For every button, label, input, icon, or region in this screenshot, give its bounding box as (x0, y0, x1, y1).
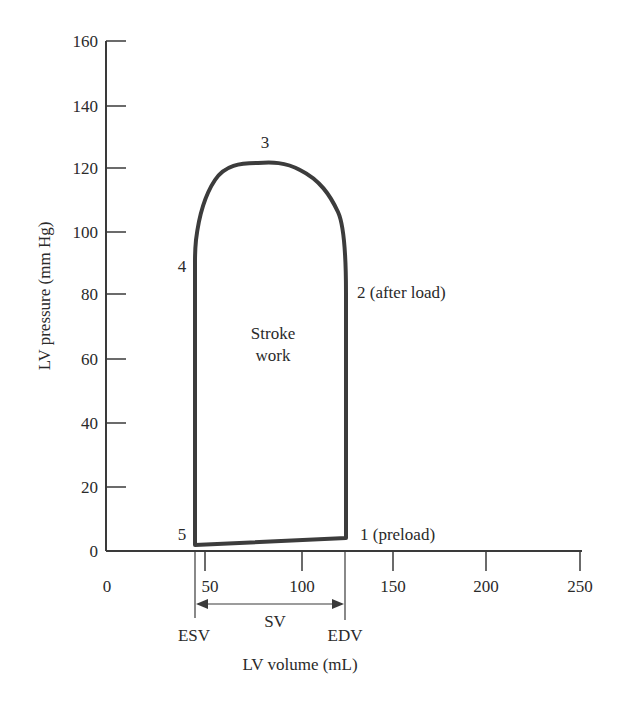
x-tick-label: 100 (289, 577, 315, 596)
arrow-right-icon (332, 599, 344, 609)
y-axis-title: LV pressure (mm Hg) (35, 222, 54, 371)
y-tick-label: 160 (73, 32, 99, 51)
y-tick-label: 120 (73, 159, 99, 178)
point-3-label: 3 (261, 133, 270, 152)
y-tick-label: 80 (81, 285, 98, 304)
x-tick-label: 150 (380, 577, 406, 596)
y-tick-label: 140 (73, 97, 99, 116)
arrow-left-icon (196, 599, 208, 609)
sv-label: SV (264, 612, 286, 631)
point-1-label: 1 (preload) (360, 525, 435, 544)
y-tick-label: 60 (81, 350, 98, 369)
esv-label: ESV (178, 626, 211, 645)
x-tick-labels: 0 50 100 150 200 250 (103, 577, 593, 596)
x-axis-title: LV volume (mL) (242, 655, 357, 674)
x-tick-label: 50 (202, 577, 219, 596)
edv-label: EDV (328, 626, 364, 645)
sv-arrow (196, 599, 344, 609)
y-tick-label: 0 (90, 542, 99, 561)
y-ticks (106, 41, 126, 487)
y-tick-label: 20 (81, 478, 98, 497)
x-tick-label: 0 (103, 577, 112, 596)
y-tick-label: 100 (73, 223, 99, 242)
point-5-label: 5 (178, 525, 187, 544)
point-4-label: 4 (178, 257, 187, 276)
stroke-work-label-line2: work (256, 346, 291, 365)
point-2-label: 2 (after load) (357, 283, 446, 302)
x-tick-label: 200 (473, 577, 499, 596)
y-tick-label: 40 (81, 414, 98, 433)
pv-loop-diagram: 160 140 120 100 80 60 40 20 0 0 50 100 1… (0, 0, 626, 707)
y-tick-labels: 160 140 120 100 80 60 40 20 0 (73, 32, 99, 561)
x-tick-label: 250 (567, 577, 593, 596)
x-ticks (205, 551, 580, 571)
stroke-work-label-line1: Stroke (251, 324, 295, 343)
